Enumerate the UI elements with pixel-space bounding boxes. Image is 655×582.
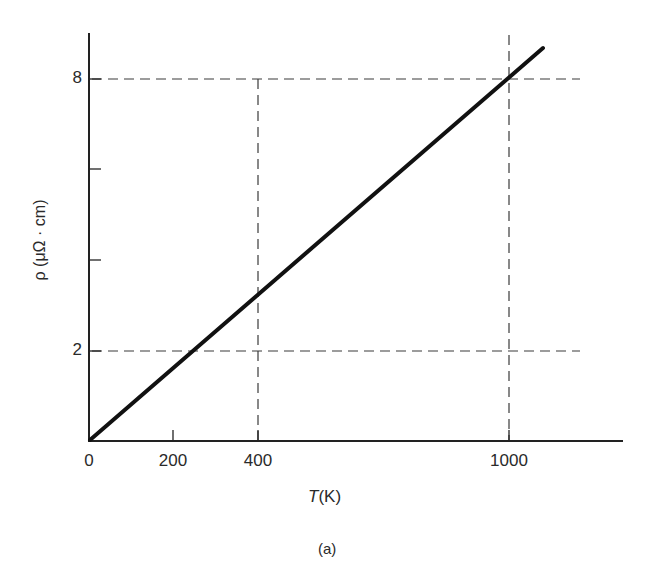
y-axis-label: ρ (μΩ · cm) xyxy=(31,200,49,281)
x-tick-label-1000: 1000 xyxy=(490,451,528,471)
resistivity-line xyxy=(90,48,543,440)
x-tick-label-200: 200 xyxy=(159,451,187,471)
x-tick-label-0: 0 xyxy=(84,451,93,471)
y-tick-label-2: 2 xyxy=(52,340,82,360)
x-axis-unit: (K) xyxy=(318,487,341,506)
x-axis-label: T(K) xyxy=(308,487,341,507)
x-axis-variable: T xyxy=(308,487,318,506)
figure-caption: (a) xyxy=(318,540,336,557)
y-tick-label-8: 8 xyxy=(52,68,82,88)
x-tick-label-400: 400 xyxy=(244,451,272,471)
